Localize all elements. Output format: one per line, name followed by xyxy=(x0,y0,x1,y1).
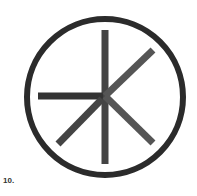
radial-symbol-icon xyxy=(0,0,197,196)
figure-label: 10. xyxy=(3,176,14,185)
upper-right-spoke xyxy=(105,50,153,96)
lower-right-spoke xyxy=(105,96,153,143)
lower-left-spoke xyxy=(58,99,102,144)
